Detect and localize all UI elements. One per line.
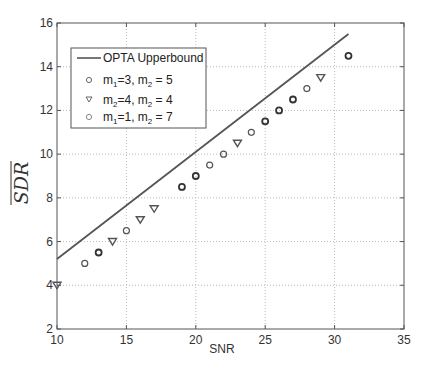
y-tick-label: 12 [40,103,54,117]
x-tick-label: 20 [189,333,203,347]
circle-marker [304,86,310,92]
triangle-marker [109,239,117,246]
y-axis-label: SDR [10,162,32,205]
circle-marker-bold [96,250,102,256]
y-tick-label: 14 [40,60,54,74]
circle-marker [248,129,254,135]
y-axis-label-group: SDR [10,161,32,205]
triangle-marker [150,206,158,213]
y-tick-label: 8 [46,191,53,205]
x-tick-label: 30 [328,333,342,347]
circle-marker-bold [179,184,185,190]
circle-marker [207,162,213,168]
x-tick-label: 35 [397,333,411,347]
y-tick-label: 16 [40,16,54,30]
y-tick-label: 10 [40,147,54,161]
y-tick-label: 4 [46,278,53,292]
triangle-marker [317,75,325,82]
y-tick-label: 6 [46,235,53,249]
x-tick-label: 25 [259,333,273,347]
circle-marker [82,260,88,266]
triangle-marker [136,217,144,224]
x-axis-label: SNR [209,342,235,356]
circle-marker-bold [345,53,351,59]
legend: OPTA Upperbound m1=3, m2 = 5 m2=4, m2 = … [71,48,206,128]
legend-label-opta: OPTA Upperbound [103,51,204,65]
chart: 101520253035246810121416 SNR SDR OPTA Up… [0,0,429,369]
y-tick-label: 2 [46,322,53,336]
x-tick-label: 15 [120,333,134,347]
triangle-marker [233,140,241,147]
circle-marker-bold [290,97,296,103]
